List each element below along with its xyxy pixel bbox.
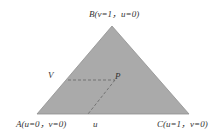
point-p-label: P [114, 71, 121, 81]
vertex-a-label: A(u=0，v=0) [15, 119, 66, 129]
vertex-b-label: B(v=1，u=0) [89, 9, 139, 19]
v-axis-label: V [48, 70, 55, 80]
vertex-c-label: C(u=1，v=0) [157, 119, 208, 129]
u-axis-label: u [93, 119, 98, 129]
triangle-abc [37, 26, 189, 114]
barycentric-triangle-diagram: B(v=1，u=0) A(u=0，v=0) C(u=1，v=0) P V u [0, 0, 213, 136]
